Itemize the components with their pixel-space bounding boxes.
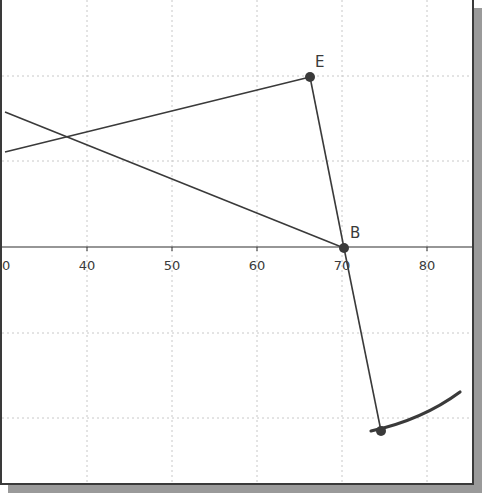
x-tick-label: 50 (164, 258, 181, 273)
x-tick-label: 60 (249, 258, 266, 273)
line-to-b[interactable] (5, 112, 344, 248)
point-bottom[interactable] (376, 426, 386, 436)
point-label-e: E (315, 53, 324, 71)
grid (2, 0, 474, 485)
x-tick-label: 30 (2, 258, 10, 273)
segment-eb[interactable] (310, 77, 344, 248)
point-label-b: B (350, 224, 360, 242)
geometry-canvas[interactable]: 30 40 50 60 70 80 E B (2, 0, 474, 485)
arc[interactable] (371, 392, 460, 431)
x-axis: 30 40 50 60 70 80 (2, 247, 474, 273)
segment-bp[interactable] (344, 248, 381, 431)
point-b[interactable] (339, 243, 349, 253)
x-tick-label: 40 (79, 258, 96, 273)
point-e[interactable] (305, 72, 315, 82)
construction[interactable]: E B (5, 53, 460, 436)
x-tick-label: 80 (419, 258, 436, 273)
graphics-view[interactable]: 30 40 50 60 70 80 E B (0, 0, 474, 485)
line-to-e[interactable] (5, 77, 310, 152)
